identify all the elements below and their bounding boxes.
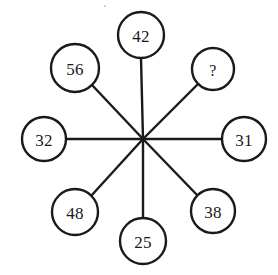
spoke-line-bottom-right [143, 139, 198, 196]
node-label-top-right: ? [209, 62, 216, 79]
node-top: 42 [118, 12, 164, 58]
node-label-bottom-left: 48 [66, 204, 84, 223]
node-bottom: 25 [120, 218, 166, 264]
node-bottom-right: 38 [191, 189, 235, 233]
node-label-right: 31 [235, 131, 253, 150]
node-label-top: 42 [132, 27, 150, 46]
node-label-top-left: 56 [66, 60, 84, 79]
node-top-right: ? [192, 48, 234, 90]
spoke-line-top [141, 58, 143, 139]
spoke-line-bottom-left [91, 139, 143, 196]
node-label-bottom-right: 38 [204, 203, 222, 222]
node-bottom-left: 48 [52, 189, 98, 235]
radial-number-wheel-figure: 42 ? 31 38 25 48 [0, 0, 278, 275]
node-top-left: 56 [51, 44, 99, 92]
stray-speck-mark [104, 5, 106, 7]
node-left: 32 [22, 117, 66, 161]
node-label-left: 32 [35, 131, 53, 150]
spoke-line-top-left [92, 85, 143, 139]
node-label-bottom: 25 [134, 233, 152, 252]
spoke-line-top-right [143, 84, 198, 139]
node-right: 31 [222, 117, 266, 161]
wheel-diagram-canvas: 42 ? 31 38 25 48 [0, 0, 278, 275]
